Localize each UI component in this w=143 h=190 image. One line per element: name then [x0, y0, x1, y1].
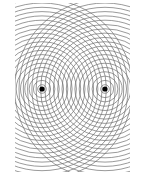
right-source-dot — [102, 86, 107, 91]
left-source-dot — [39, 86, 44, 91]
wave-pattern-canvas — [0, 0, 143, 190]
